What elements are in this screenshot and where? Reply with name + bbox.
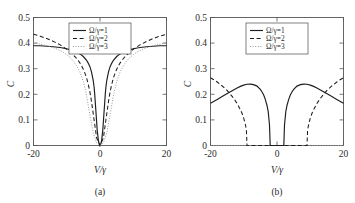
x-tick-0: 0 (98, 149, 103, 159)
y-tick-0.4: 0.4 (195, 38, 207, 48)
x-tick-minus20: -20 (204, 149, 217, 159)
x-axis-label: V/γ (94, 165, 106, 175)
y-tick-0.2: 0.2 (195, 90, 207, 100)
legend-label-omega-3: Ω/γ=3 (266, 42, 285, 51)
y-tick-0.5: 0.5 (18, 13, 30, 23)
y-tick-0.3: 0.3 (18, 64, 30, 74)
x-axis-label: V/γ (271, 165, 283, 175)
y-axis-label: C (183, 80, 193, 87)
y-tick-0.1: 0.1 (195, 115, 207, 125)
panel-b: 0 0.1 0.2 0.3 0.4 0.5 -20 0 20 C V/γ (b) (177, 0, 354, 203)
panel-a-legend: Ω/γ=1 Ω/γ=2 Ω/γ=3 (69, 23, 131, 54)
panel-a: 0 0.1 0.2 0.3 0.4 0.5 -20 0 20 C V/γ (a) (0, 0, 177, 203)
y-tick-0.3: 0.3 (195, 64, 207, 74)
x-tick-20: 20 (339, 149, 349, 159)
panel-b-legend: Ω/γ=1 Ω/γ=2 Ω/γ=3 (246, 23, 308, 54)
panel-b-curves (211, 78, 344, 146)
panel-a-plot: 0 0.1 0.2 0.3 0.4 0.5 -20 0 20 C V/γ (a) (0, 0, 177, 203)
curve-omega-1 (34, 46, 167, 146)
y-axis-label: C (6, 80, 16, 87)
legend-label-omega-3: Ω/γ=3 (89, 42, 108, 51)
x-tick-0: 0 (275, 149, 280, 159)
y-tick-0.2: 0.2 (18, 90, 30, 100)
panel-b-plot: 0 0.1 0.2 0.3 0.4 0.5 -20 0 20 C V/γ (b) (177, 0, 354, 203)
y-tick-0.1: 0.1 (18, 115, 30, 125)
panel-label-a: (a) (95, 187, 106, 198)
x-tick-minus20: -20 (27, 149, 40, 159)
y-tick-0.5: 0.5 (195, 13, 207, 23)
x-tick-20: 20 (162, 149, 172, 159)
panel-label-b: (b) (271, 187, 282, 198)
curve-omega-1 (211, 84, 344, 145)
figure-container: 0 0.1 0.2 0.3 0.4 0.5 -20 0 20 C V/γ (a) (0, 0, 355, 203)
curve-omega-3 (34, 43, 167, 145)
y-tick-0.4: 0.4 (18, 38, 30, 48)
curve-omega-2 (211, 78, 344, 146)
